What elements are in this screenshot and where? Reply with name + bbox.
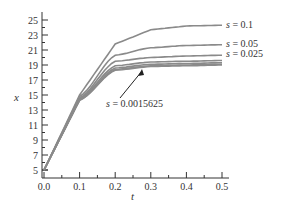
y-tick-label: 7	[33, 150, 38, 161]
label-s-0.0015625: s = 0.0015625	[106, 98, 163, 109]
x-axis-label: t	[131, 190, 135, 202]
y-tick-label: 17	[28, 75, 38, 86]
y-tick-label: 23	[28, 30, 38, 41]
x-tick-label: 0.0	[38, 181, 51, 192]
y-tick-label: 9	[33, 135, 38, 146]
series-line	[44, 61, 222, 171]
y-tick-label: 25	[28, 15, 38, 26]
y-tick-label: 15	[28, 90, 38, 101]
series-line	[44, 65, 222, 170]
label-s-0.025: s = 0.025	[226, 48, 263, 59]
y-axis-label: x	[13, 91, 19, 103]
x-tick-label: 0.3	[145, 181, 158, 192]
y-tick-label: 13	[28, 105, 38, 116]
x-tick-label: 0.2	[109, 181, 122, 192]
y-tick-label: 19	[28, 60, 38, 71]
label-s-0.1: s = 0.1	[226, 19, 253, 30]
y-tick-label: 21	[28, 45, 38, 56]
arrow-head-icon	[138, 69, 144, 76]
y-tick-label: 11	[28, 120, 38, 131]
line-chart: 57911131517192123250.00.10.20.30.40.5 s …	[0, 0, 281, 213]
x-tick-label: 0.1	[73, 181, 86, 192]
x-tick-label: 0.4	[180, 181, 193, 192]
x-tick-label: 0.5	[216, 181, 229, 192]
y-tick-label: 5	[33, 165, 38, 176]
